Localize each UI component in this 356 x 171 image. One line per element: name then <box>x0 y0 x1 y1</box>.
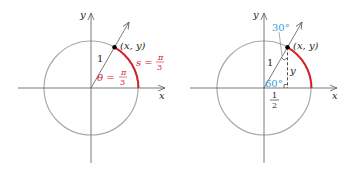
point-xy <box>285 45 289 49</box>
y-axis-label: y <box>79 9 86 20</box>
right-angle-marker <box>284 85 288 89</box>
half-num: 1 <box>272 91 277 100</box>
theta-num: π <box>120 68 127 77</box>
angle-30-label: 30° <box>272 22 290 33</box>
arc-den: 3 <box>157 63 162 72</box>
right-diagram: y x (x, y) 1 30° 60° y 1 2 <box>190 9 338 163</box>
y-axis-label: y <box>252 9 259 20</box>
arc-label: s = <box>136 57 153 68</box>
x-axis-label: x <box>159 90 165 101</box>
arc-num: π <box>157 53 164 62</box>
theta-den: 3 <box>120 78 125 87</box>
unit-circle-figure: y x (x, y) 1 θ = π 3 s = π 3 y x (x, y) … <box>0 0 356 171</box>
angle-60-label: 60° <box>265 78 283 89</box>
theta-label: θ = <box>97 72 115 83</box>
radius-label: 1 <box>267 57 273 68</box>
radius-label: 1 <box>97 53 103 64</box>
arc-s <box>115 47 139 88</box>
point-xy <box>112 45 116 49</box>
point-label: (x, y) <box>120 40 146 51</box>
point-label: (x, y) <box>293 40 319 51</box>
x-axis-label: x <box>332 90 338 101</box>
half-den: 2 <box>272 101 277 110</box>
left-diagram: y x (x, y) 1 θ = π 3 s = π 3 <box>18 9 165 163</box>
vertical-y-label: y <box>289 65 296 76</box>
top-angle-marker <box>282 58 288 61</box>
